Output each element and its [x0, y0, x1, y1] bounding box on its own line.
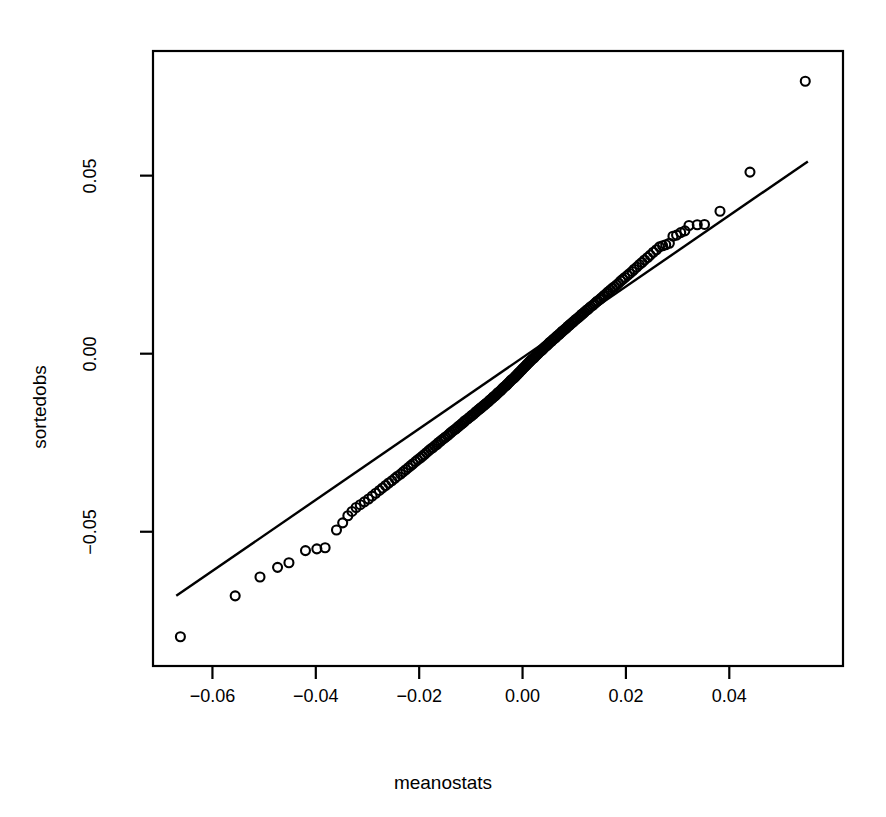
y-tick-label: −0.05: [45, 520, 135, 544]
x-tick-label: −0.06: [190, 686, 236, 707]
qq-plot-svg: [0, 0, 886, 817]
x-tick-label: −0.02: [396, 686, 442, 707]
x-axis-label: meanostats: [0, 772, 886, 794]
y-tick-label: 0.05: [45, 164, 135, 188]
x-axis-ticks: [212, 666, 729, 679]
x-tick-label: 0.00: [505, 686, 540, 707]
x-tick-label: −0.04: [293, 686, 339, 707]
y-axis-ticks: [140, 176, 153, 532]
scatter-points: [176, 77, 810, 642]
y-axis-label: sortedobs: [29, 307, 51, 507]
x-tick-label: 0.02: [608, 686, 643, 707]
chart-canvas: meanostats sortedobs −0.06−0.04−0.020.00…: [0, 0, 886, 817]
reference-line: [176, 161, 808, 595]
x-tick-label: 0.04: [712, 686, 747, 707]
y-tick-label: 0.00: [45, 342, 135, 366]
